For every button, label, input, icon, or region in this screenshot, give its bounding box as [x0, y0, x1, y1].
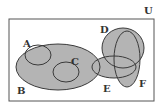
set-d-label: D	[100, 24, 109, 35]
set-c-label: C	[71, 56, 79, 67]
set-a-label: A	[22, 38, 31, 49]
set-f-label: F	[139, 78, 146, 89]
universe-label: U	[144, 5, 153, 16]
venn-diagram: U A B C D E F	[0, 0, 164, 104]
set-b-label: B	[17, 85, 25, 96]
set-e-label: E	[103, 83, 111, 94]
